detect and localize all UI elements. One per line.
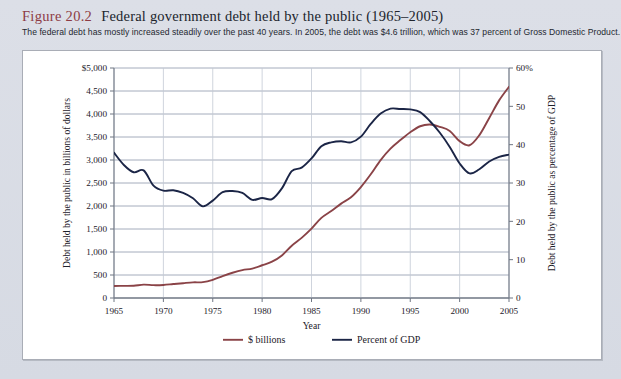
x-tick-label: 2000 (450, 306, 469, 316)
x-tick-label: 1980 (253, 306, 272, 316)
figure-number: Figure 20.2 (22, 8, 92, 24)
y-tick-label-right: 50 (516, 102, 526, 112)
y-tick-label-right: 0 (516, 293, 521, 303)
chart-plot-area: 05001,0001,5002,0002,5003,0003,5004,0004… (23, 51, 601, 359)
page-background: Figure 20.2Federal government debt held … (0, 0, 621, 379)
chart-panel: 05001,0001,5002,0002,5003,0003,5004,0004… (22, 50, 602, 360)
y-tick-label-left: 500 (93, 270, 107, 280)
x-tick-label: 2005 (500, 306, 519, 316)
y-tick-label-right: 40 (516, 140, 526, 150)
figure-header: Figure 20.2Federal government debt held … (22, 8, 607, 38)
x-axis-title: Year (303, 320, 321, 331)
y-tick-label-left: 2,500 (86, 178, 107, 188)
y-tick-label-left: 2,000 (86, 201, 107, 211)
y-tick-label-left: $5,000 (82, 63, 108, 73)
x-tick-label: 1995 (401, 306, 420, 316)
legend-label: Percent of GDP (357, 334, 421, 345)
x-tick-label: 1975 (204, 306, 223, 316)
y-tick-label-left: 1,000 (86, 247, 107, 257)
y-tick-label-left: 3,000 (86, 155, 107, 165)
y-tick-label-left: 4,000 (86, 109, 107, 119)
page-title: Federal government debt held by the publ… (101, 8, 443, 24)
figure-title-line: Figure 20.2Federal government debt held … (22, 8, 607, 25)
y-tick-label-right: 10 (516, 255, 526, 265)
x-tick-label: 1970 (154, 306, 173, 316)
y-tick-label-right: 60% (516, 63, 533, 73)
y-tick-label-left: 0 (102, 293, 107, 303)
y-tick-label-right: 20 (516, 217, 526, 227)
y-axis-title-left: Debt held by the public in billions of d… (61, 98, 72, 268)
x-tick-label: 1985 (302, 306, 321, 316)
y-tick-label-left: 1,500 (86, 224, 107, 234)
x-tick-label: 1965 (105, 306, 124, 316)
y-tick-label-right: 30 (516, 178, 526, 188)
legend-label: $ billions (248, 334, 286, 345)
y-tick-label-left: 3,500 (86, 132, 107, 142)
x-tick-label: 1990 (352, 306, 371, 316)
y-tick-label-left: 4,500 (86, 86, 107, 96)
line-chart: 05001,0001,5002,0002,5003,0003,5004,0004… (23, 51, 601, 359)
figure-subtitle: The federal debt has mostly increased st… (22, 27, 607, 38)
y-axis-title-right: Debt held by the public as percentage of… (546, 95, 557, 271)
